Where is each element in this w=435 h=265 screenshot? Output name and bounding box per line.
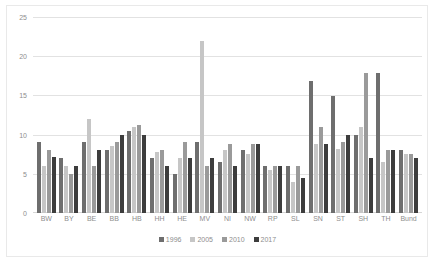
bar[interactable] — [273, 166, 277, 213]
bar[interactable] — [354, 135, 358, 213]
bar[interactable] — [319, 127, 323, 213]
legend-item[interactable]: 1996 — [159, 236, 182, 243]
x-axis-tick-label: NI — [216, 215, 239, 222]
bar[interactable] — [314, 144, 318, 213]
bar[interactable] — [409, 154, 413, 213]
x-axis-labels: BWBYBEBBHBHHHEMVNINWRPSLSNSTSHTHBund — [33, 215, 422, 222]
bar[interactable] — [178, 158, 182, 213]
bar-group — [307, 17, 330, 213]
x-axis-tick-label: BW — [35, 215, 58, 222]
bar[interactable] — [391, 150, 395, 213]
bar[interactable] — [110, 146, 114, 213]
bar[interactable] — [296, 166, 300, 213]
bar[interactable] — [218, 162, 222, 213]
bar[interactable] — [364, 73, 368, 213]
bar-group — [148, 17, 171, 213]
bar[interactable] — [165, 166, 169, 213]
bar[interactable] — [64, 166, 68, 213]
bar[interactable] — [160, 150, 164, 213]
bar[interactable] — [42, 166, 46, 213]
x-axis-tick-label: RP — [261, 215, 284, 222]
bar[interactable] — [386, 150, 390, 213]
x-axis-tick-label: BE — [80, 215, 103, 222]
x-axis-tick-label: ST — [329, 215, 352, 222]
bar-group — [193, 17, 216, 213]
bar[interactable] — [137, 125, 141, 213]
legend-item[interactable]: 2010 — [222, 236, 245, 243]
bar[interactable] — [241, 150, 245, 213]
bar-group — [58, 17, 81, 213]
bar[interactable] — [87, 119, 91, 213]
bar[interactable] — [210, 158, 214, 213]
y-axis-tick-label: 5 — [23, 170, 27, 177]
bar[interactable] — [291, 182, 295, 213]
bar[interactable] — [82, 142, 86, 213]
bar[interactable] — [59, 158, 63, 213]
bar[interactable] — [142, 135, 146, 213]
bar-group — [284, 17, 307, 213]
bar[interactable] — [346, 135, 350, 213]
bar[interactable] — [256, 144, 260, 213]
bar[interactable] — [97, 150, 101, 213]
bar[interactable] — [404, 154, 408, 213]
bar[interactable] — [263, 166, 267, 213]
bar[interactable] — [331, 96, 335, 213]
bar-group — [103, 17, 126, 213]
bar[interactable] — [369, 158, 373, 213]
bar[interactable] — [155, 152, 159, 213]
bar[interactable] — [92, 166, 96, 213]
bar[interactable] — [233, 166, 237, 213]
bar[interactable] — [268, 170, 272, 213]
x-axis-tick-label: MV — [193, 215, 216, 222]
bar[interactable] — [183, 142, 187, 213]
x-axis-tick-label: HE — [171, 215, 194, 222]
bar[interactable] — [52, 157, 56, 213]
legend-item[interactable]: 2017 — [254, 236, 277, 243]
bar[interactable] — [309, 81, 313, 213]
bar[interactable] — [188, 158, 192, 213]
bar-group — [397, 17, 420, 213]
bar[interactable] — [127, 131, 131, 213]
bar[interactable] — [399, 150, 403, 213]
y-axis-tick-label: 10 — [19, 131, 27, 138]
bar[interactable] — [200, 41, 204, 213]
x-axis-tick-label: Bund — [397, 215, 420, 222]
bar[interactable] — [324, 144, 328, 213]
bar[interactable] — [47, 150, 51, 213]
bar[interactable] — [301, 178, 305, 213]
y-axis-tick-label: 25 — [19, 14, 27, 21]
bar[interactable] — [205, 166, 209, 213]
bar-group — [171, 17, 194, 213]
bar[interactable] — [381, 162, 385, 213]
bar[interactable] — [195, 142, 199, 213]
x-axis-tick-label: NW — [239, 215, 262, 222]
bar[interactable] — [132, 127, 136, 213]
bar[interactable] — [173, 174, 177, 213]
bar-group — [261, 17, 284, 213]
bar-group — [126, 17, 149, 213]
bar[interactable] — [251, 144, 255, 213]
bar[interactable] — [336, 149, 340, 213]
bar-group — [216, 17, 239, 213]
bar[interactable] — [228, 144, 232, 213]
bar[interactable] — [69, 174, 73, 213]
legend-swatch-icon — [190, 237, 195, 242]
legend-item[interactable]: 2005 — [190, 236, 213, 243]
y-axis-tick-label: 15 — [19, 92, 27, 99]
bar[interactable] — [359, 127, 363, 213]
bar[interactable] — [341, 142, 345, 213]
bar[interactable] — [278, 166, 282, 213]
bar[interactable] — [115, 142, 119, 213]
bar[interactable] — [286, 166, 290, 213]
bar[interactable] — [246, 154, 250, 213]
bar[interactable] — [414, 158, 418, 213]
bar-group — [375, 17, 398, 213]
bar[interactable] — [37, 142, 41, 213]
bar[interactable] — [223, 150, 227, 213]
bar[interactable] — [74, 166, 78, 213]
bar[interactable] — [376, 73, 380, 213]
bar-group — [239, 17, 262, 213]
bar[interactable] — [120, 135, 124, 213]
bar[interactable] — [105, 150, 109, 213]
bar[interactable] — [150, 158, 154, 213]
